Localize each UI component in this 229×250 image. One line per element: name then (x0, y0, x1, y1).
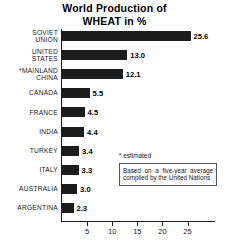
bar (62, 184, 77, 194)
bar (62, 31, 191, 41)
bar (62, 69, 123, 79)
bar (62, 127, 84, 137)
bar-value-label: 4.5 (88, 108, 99, 117)
bar-row: ARGENTINA2.3 (0, 203, 229, 213)
x-axis-tick-label: 25 (183, 227, 191, 236)
wheat-production-chart: World Production of WHEAT in % 510152025… (0, 0, 229, 250)
bar-row: *MAINLAND CHINA12.1 (0, 69, 229, 79)
x-axis-tick (87, 222, 88, 226)
x-axis-tick (188, 222, 189, 226)
bar-value-label: 3.3 (82, 166, 93, 175)
source-note-box: Based on a five-year average compiled by… (119, 163, 217, 186)
bar-value-label: 25.6 (194, 32, 209, 41)
bar (62, 88, 90, 98)
bar-category-label: TURKEY (0, 147, 58, 154)
bar-category-label: SOVIET UNION (0, 29, 58, 44)
bar-value-label: 3.4 (82, 147, 93, 156)
bar-category-label: *MAINLAND CHINA (0, 67, 58, 82)
bar-value-label: 3.0 (80, 185, 91, 194)
bar-value-label: 4.4 (87, 128, 98, 137)
bar-value-label: 12.1 (126, 70, 141, 79)
bar-category-label: UNITED STATES (0, 48, 58, 63)
x-axis-tick-label: 10 (108, 227, 116, 236)
x-axis-tick-label: 20 (158, 227, 166, 236)
x-axis-tick-label: 5 (85, 227, 89, 236)
bar-category-label: ITALY (0, 166, 58, 173)
bar (62, 146, 79, 156)
bar-row: TURKEY3.4 (0, 146, 229, 156)
bar (62, 50, 127, 60)
bar-value-label: 13.0 (130, 51, 145, 60)
bar-category-label: CANADA (0, 89, 58, 96)
bar-row: UNITED STATES13.0 (0, 50, 229, 60)
x-axis-tick (162, 222, 163, 226)
x-axis-tick (112, 222, 113, 226)
bar-row: INDIA4.4 (0, 127, 229, 137)
bar-category-label: FRANCE (0, 109, 58, 116)
bar (62, 165, 79, 175)
estimated-footnote: * estimated (119, 152, 151, 159)
bar-category-label: AUSTRALIA (0, 185, 58, 192)
bar-row: SOVIET UNION25.6 (0, 31, 229, 41)
bar-row: FRANCE4.5 (0, 107, 229, 117)
bar-row: CANADA5.5 (0, 88, 229, 98)
bar-category-label: ARGENTINA (0, 204, 58, 211)
x-axis-tick-label: 15 (133, 227, 141, 236)
bar-value-label: 2.3 (77, 204, 88, 213)
x-axis-tick (137, 222, 138, 226)
bar-value-label: 5.5 (93, 89, 104, 98)
bar (62, 203, 74, 213)
plot-area: 510152025SOVIET UNION25.6UNITED STATES13… (0, 0, 229, 250)
bar-category-label: INDIA (0, 128, 58, 135)
bar (62, 107, 85, 117)
